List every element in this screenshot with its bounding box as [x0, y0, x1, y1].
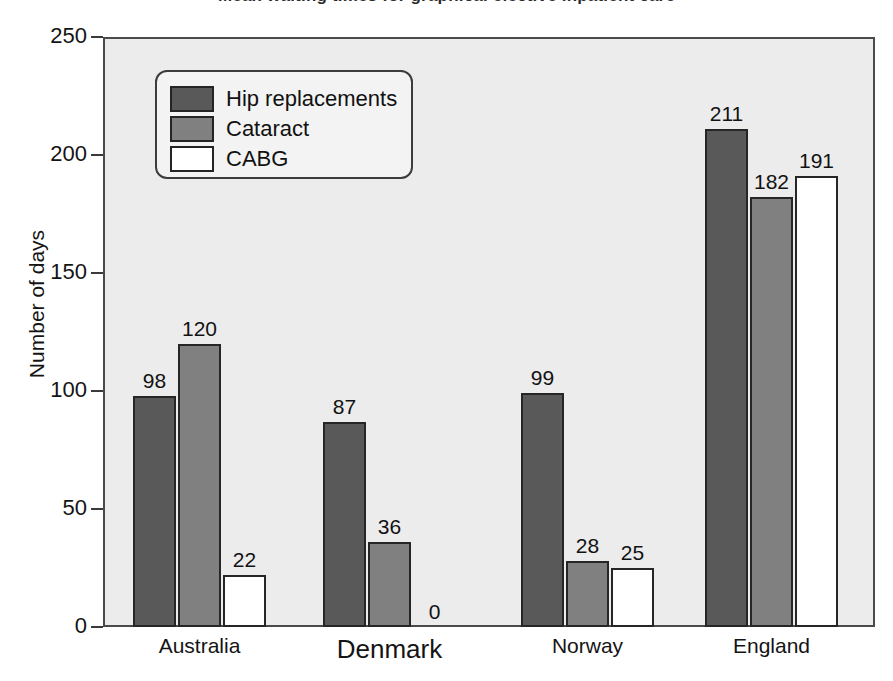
- chart-legend: Hip replacementsCataractCABG: [155, 70, 413, 179]
- legend-swatch-icon: [170, 86, 214, 112]
- y-axis-ticks: 250200150100500: [0, 0, 103, 681]
- category-label-australia: Australia: [110, 634, 290, 658]
- bar-value-label: 182: [738, 170, 805, 194]
- bar-england-cataract: [750, 197, 793, 627]
- y-tick-mark: [91, 272, 103, 274]
- legend-swatch-icon: [170, 116, 214, 142]
- y-tick-label: 50: [63, 495, 87, 521]
- legend-item-cabg: CABG: [170, 144, 288, 174]
- bar-value-label: 211: [693, 102, 760, 126]
- y-tick-label: 100: [50, 377, 87, 403]
- category-label-norway: Norway: [498, 634, 678, 658]
- y-tick-label: 250: [50, 23, 87, 49]
- y-tick-mark: [91, 390, 103, 392]
- bar-australia-hip-replacements: [133, 396, 176, 627]
- bar-australia-cabg: [223, 575, 266, 627]
- chart-title: Mean waiting times for graphical electiv…: [0, 0, 893, 6]
- bar-value-label: 120: [166, 317, 233, 341]
- legend-label: Cataract: [226, 118, 309, 140]
- y-tick-label: 200: [50, 141, 87, 167]
- y-tick-mark: [91, 626, 103, 628]
- y-tick-label: 0: [75, 613, 87, 639]
- y-tick-mark: [91, 36, 103, 38]
- bar-value-label: 0: [401, 600, 468, 624]
- bar-norway-cataract: [566, 561, 609, 627]
- y-tick-label: 150: [50, 259, 87, 285]
- legend-item-cataract: Cataract: [170, 114, 309, 144]
- bar-value-label: 191: [783, 149, 850, 173]
- legend-label: CABG: [226, 148, 288, 170]
- bar-england-hip-replacements: [705, 129, 748, 627]
- y-tick-mark: [91, 508, 103, 510]
- y-tick-mark: [91, 154, 103, 156]
- category-label-denmark: Denmark: [300, 634, 480, 665]
- bar-england-cabg: [795, 176, 838, 627]
- bar-value-label: 98: [121, 369, 188, 393]
- bar-norway-cabg: [611, 568, 654, 627]
- legend-label: Hip replacements: [226, 88, 397, 110]
- legend-swatch-icon: [170, 146, 214, 172]
- legend-item-hip-replacements: Hip replacements: [170, 84, 397, 114]
- bar-value-label: 25: [599, 541, 666, 565]
- bar-norway-hip-replacements: [521, 393, 564, 627]
- bar-value-label: 22: [211, 548, 278, 572]
- bar-value-label: 99: [509, 366, 576, 390]
- bar-value-label: 36: [356, 515, 423, 539]
- bar-value-label: 87: [311, 395, 378, 419]
- category-label-england: England: [682, 634, 862, 658]
